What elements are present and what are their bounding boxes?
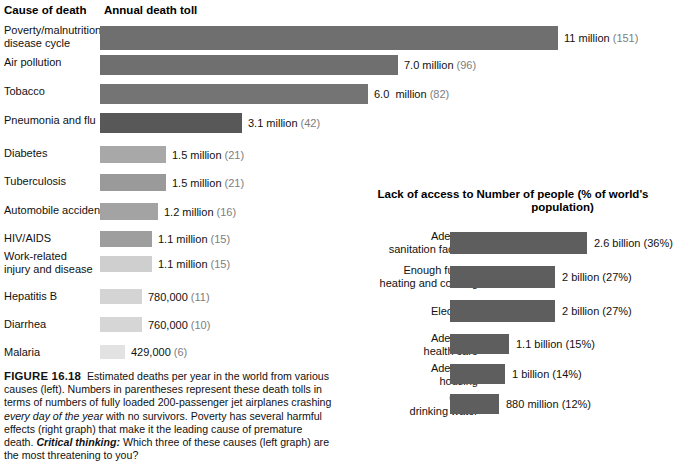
left-chart-value-label: 1.5 million (21) xyxy=(172,149,244,161)
left-chart-category-label: Malaria xyxy=(4,346,40,359)
left-chart-value-number: 6.0 million xyxy=(374,88,430,100)
figure-number: FIGURE 16.18 xyxy=(4,370,81,382)
left-chart-value-number: 11 million xyxy=(564,32,613,44)
left-chart-category-label: HIV/AIDS xyxy=(4,232,51,245)
left-chart-value-parenthetical: (15) xyxy=(211,233,231,245)
left-chart-value-label: 11 million (151) xyxy=(564,32,638,44)
left-chart-value-number: 760,000 xyxy=(148,319,191,331)
right-chart-value-label: 2 billion (27%) xyxy=(562,271,632,283)
left-chart-bar xyxy=(100,55,398,75)
caption-italic-phrase: every day of the year xyxy=(4,410,103,422)
left-chart-category-header: Cause of death xyxy=(4,4,86,17)
right-chart-bar xyxy=(450,300,555,322)
right-chart-bar xyxy=(450,232,587,254)
left-chart-value-parenthetical: (96) xyxy=(457,59,477,71)
left-chart-value-label: 429,000 (6) xyxy=(131,346,187,358)
left-chart-value-parenthetical: (10) xyxy=(191,319,211,331)
critical-thinking-label: Critical thinking: xyxy=(36,436,120,448)
left-chart-bar xyxy=(100,256,152,272)
left-chart-value-parenthetical: (11) xyxy=(191,291,210,303)
left-chart-value-label: 7.0 million (96) xyxy=(404,59,476,71)
left-chart-value-parenthetical: (82) xyxy=(430,88,450,100)
left-chart-category-label: Air pollution xyxy=(4,56,61,69)
left-chart-value-label: 1.2 million (16) xyxy=(164,206,236,218)
left-chart-value-parenthetical: (42) xyxy=(301,117,321,129)
left-chart-category-label: Diabetes xyxy=(4,147,47,160)
left-chart-category-label: Tobacco xyxy=(4,85,45,98)
left-chart-category-label: Tuberculosis xyxy=(4,175,66,188)
left-chart-bar xyxy=(100,231,152,247)
left-chart-value-label: 6.0 million (82) xyxy=(374,88,449,100)
left-chart-value-number: 7.0 million xyxy=(404,59,457,71)
figure-caption: FIGURE 16.18 Estimated deaths per year i… xyxy=(4,370,334,461)
left-chart-category-label: Work-related injury and disease xyxy=(4,250,93,275)
right-chart-bar xyxy=(450,364,505,384)
left-chart-bar xyxy=(100,113,242,133)
left-chart-category-label: Hepatitis B xyxy=(4,290,57,303)
left-chart-value-number: 3.1 million xyxy=(248,117,301,129)
left-chart-bar xyxy=(100,345,125,359)
left-chart-bar xyxy=(100,174,166,191)
left-chart-value-parenthetical: (21) xyxy=(225,149,245,161)
left-chart-value-parenthetical: (16) xyxy=(217,206,237,218)
left-chart-bar xyxy=(100,26,558,50)
right-chart-bar xyxy=(450,266,555,288)
left-chart-value-label: 1.5 million (21) xyxy=(172,177,244,189)
right-chart-value-header: Number of people (% of world's populatio… xyxy=(460,188,665,213)
right-chart-value-label: 1.1 billion (15%) xyxy=(516,338,595,350)
left-chart-value-label: 1.1 million (15) xyxy=(158,258,230,270)
left-chart-value-label: 1.1 million (15) xyxy=(158,233,230,245)
left-chart-category-label: Diarrhea xyxy=(4,318,46,331)
left-chart-bar xyxy=(100,84,368,104)
right-chart-value-label: 880 million (12%) xyxy=(506,398,591,410)
left-chart-value-number: 1.5 million xyxy=(172,177,225,189)
left-chart-category-label: Pneumonia and flu xyxy=(4,114,96,127)
left-chart-value-number: 1.5 million xyxy=(172,149,225,161)
left-chart-value-number: 1.1 million xyxy=(158,233,211,245)
left-chart-value-parenthetical: (151) xyxy=(613,32,639,44)
left-chart-value-number: 429,000 xyxy=(131,346,174,358)
right-chart-bar xyxy=(450,394,499,414)
left-chart-value-label: 780,000 (11) xyxy=(148,291,210,303)
left-chart-value-label: 3.1 million (42) xyxy=(248,117,320,129)
left-chart-value-header: Annual death toll xyxy=(104,4,197,17)
left-chart-value-number: 1.2 million xyxy=(164,206,217,218)
left-chart-value-number: 780,000 xyxy=(148,291,191,303)
left-chart-bar xyxy=(100,317,142,332)
right-chart-value-label: 2 billion (27%) xyxy=(562,305,632,317)
left-chart-value-parenthetical: (21) xyxy=(225,177,245,189)
left-chart-category-label: Automobile accidents xyxy=(4,204,109,217)
left-chart-bar xyxy=(100,146,166,163)
right-chart-bar xyxy=(450,334,509,354)
left-chart-value-parenthetical: (6) xyxy=(174,346,187,358)
left-chart-category-label: Poverty/malnutrition/ disease cycle xyxy=(4,24,104,49)
right-bar-chart: Lack of access to Number of people (% of… xyxy=(330,186,668,461)
right-chart-value-label: 2.6 billion (36%) xyxy=(594,237,673,249)
left-chart-value-number: 1.1 million xyxy=(158,258,211,270)
left-chart-bar xyxy=(100,289,142,304)
left-chart-value-parenthetical: (15) xyxy=(211,258,231,270)
right-chart-value-label: 1 billion (14%) xyxy=(512,368,582,380)
left-chart-bar xyxy=(100,203,158,220)
left-chart-value-label: 760,000 (10) xyxy=(148,319,210,331)
